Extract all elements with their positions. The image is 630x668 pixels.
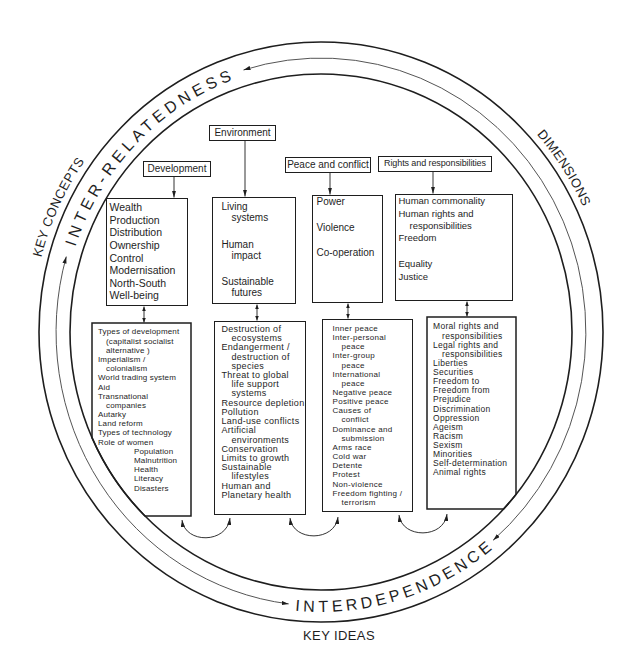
concept-item: Power	[317, 196, 383, 209]
topic-item: Arms race	[333, 443, 413, 452]
concept-item: Justice	[399, 271, 513, 283]
interdependence-label: INTERDEPENDENCE	[295, 536, 498, 615]
topic-item: International	[333, 370, 413, 379]
topic-item: Population	[98, 447, 191, 456]
topic-item: Detente	[333, 461, 413, 470]
concept-item: Human	[222, 239, 296, 251]
topic-item: Literacy	[98, 474, 191, 483]
topic-item: Types of development	[98, 327, 191, 336]
link-arrow-development-environment	[182, 518, 230, 538]
rights-concepts-box: Human commonality Human rights and respo…	[395, 194, 513, 301]
link-arrow-environment-peace	[290, 517, 338, 536]
topic-item: Animal rights	[433, 468, 516, 477]
topic-item: Transnational	[98, 392, 191, 401]
concept-item: impact	[222, 250, 296, 262]
concept-item: Modernisation	[110, 264, 188, 277]
topic-item: Causes of	[333, 406, 413, 415]
topic-item: companies	[98, 401, 191, 410]
concept-item: Well-being	[110, 289, 188, 302]
concept-item: Control	[110, 252, 188, 265]
concept-item: Ownership	[110, 239, 188, 252]
concept-item: futures	[222, 287, 296, 299]
concept-item: Freedom	[399, 232, 513, 244]
link-arrow-peace-rights	[399, 514, 447, 533]
topic-item: Imperialism /	[98, 355, 191, 364]
topic-item: Types of technology	[98, 428, 191, 437]
dimensions-text: DIMENSIONS	[535, 127, 595, 209]
concept-item: Wealth	[110, 201, 188, 214]
topic-item: alternative )	[98, 346, 191, 355]
global-education-diagram: INTER-RELATEDNESS INTERDEPENDENCE KEY CO…	[0, 0, 630, 668]
concept-item: Co-operation	[317, 247, 383, 260]
topic-item: Health	[98, 465, 191, 474]
development-title-box: Development	[143, 161, 211, 177]
concept-item: North-South	[110, 277, 188, 290]
concept-item: Production	[110, 214, 188, 227]
topic-item: Positive peace	[333, 397, 413, 406]
topic-item: Aid	[98, 383, 191, 392]
topic-item: Disasters	[98, 484, 191, 493]
topic-item: Land reform	[98, 419, 191, 428]
topic-item: Malnutrition	[98, 456, 191, 465]
concept-item: Human rights and	[399, 208, 513, 220]
topic-item: Dominance and	[333, 425, 413, 434]
concept-item: Equality	[399, 258, 513, 270]
key-ideas-label: KEY IDEAS	[303, 628, 375, 643]
topic-item: colonialism	[98, 364, 191, 373]
topic-item: Autarky	[98, 410, 191, 419]
topic-item: submission	[333, 434, 413, 443]
topic-item: Protest	[333, 470, 413, 479]
development-topics-box: Types of development (capitalist sociali…	[92, 323, 191, 516]
concept-item: Sustainable	[222, 276, 296, 288]
rights-topics-box: Moral rights and responsibilities Legal …	[427, 317, 516, 509]
topic-item: terrorism	[333, 498, 413, 507]
dimensions-label: DIMENSIONS	[535, 127, 595, 209]
topic-item: Planetary health	[222, 491, 306, 500]
topic-item: peace	[333, 361, 413, 370]
topic-item: Inter-personal	[333, 333, 413, 342]
topic-item: Inner peace	[333, 324, 413, 333]
topic-item: Role of women	[98, 438, 191, 447]
topic-item: World trading system	[98, 373, 191, 382]
peace-and-conflict-title-box: Peace and conflict	[285, 157, 371, 173]
rights-and-responsibilities-title-box: Rights and responsibilities	[378, 156, 492, 172]
topic-item: peace	[333, 342, 413, 351]
concept-item: Human commonality	[399, 195, 513, 207]
environment-title-box: Environment	[209, 125, 276, 141]
topic-item: Non-violence	[333, 480, 413, 489]
environment-topics-box: Destruction of ecosystems Endangerment /…	[214, 321, 306, 515]
topic-item: Negative peace	[333, 388, 413, 397]
concept-item: Violence	[317, 222, 383, 235]
concept-item: responsibilities	[399, 220, 513, 232]
development-concepts-box: Wealth Production Distribution Ownership…	[106, 198, 188, 306]
environment-concepts-box: Living systems Human impact Sustainable …	[212, 197, 296, 304]
peace-concepts-box: Power Violence Co-operation	[312, 195, 383, 303]
concept-item: systems	[222, 212, 296, 224]
concept-item: Distribution	[110, 226, 188, 239]
topic-item: peace	[333, 379, 413, 388]
concept-item: Living	[222, 201, 296, 213]
interdependence-text: INTERDEPENDENCE	[295, 536, 498, 615]
topic-item: (capitalist socialist	[98, 337, 191, 346]
topic-item: Cold war	[333, 452, 413, 461]
topic-item: conflict	[333, 415, 413, 424]
topic-item: Freedom fighting /	[333, 489, 413, 498]
peace-topics-box: Inner peace Inter-personal peace Inter-g…	[322, 319, 413, 512]
topic-item: Inter-group	[333, 351, 413, 360]
